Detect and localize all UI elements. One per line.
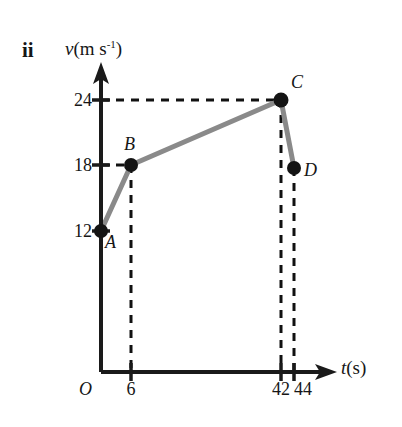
figure-canvas: ii v(m s-1) t(s) O 24 18 12 6 42 44 A B … (0, 0, 402, 427)
plot-area (0, 0, 402, 427)
data-point-D (287, 161, 301, 175)
data-point-A (94, 224, 108, 238)
tick-marks (92, 100, 294, 381)
dashed-guides (101, 100, 294, 372)
data-point-B (124, 158, 138, 172)
data-point-markers (94, 93, 301, 239)
data-point-C (274, 93, 289, 108)
